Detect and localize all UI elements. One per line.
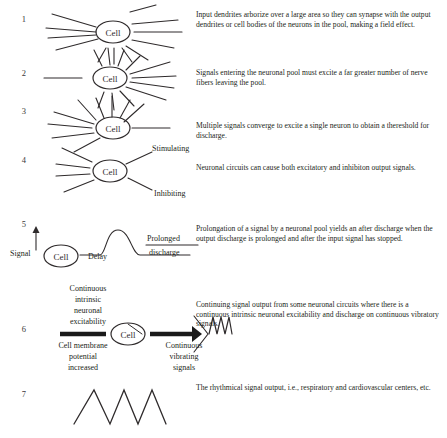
label-inhibiting: Inhibiting: [154, 189, 186, 198]
cell-label: Cell: [121, 330, 136, 340]
cell-label: Cell: [106, 28, 121, 38]
cell-label: Cell: [54, 252, 69, 262]
row-text-4: Neuronal circuits can cause both excitat…: [196, 163, 442, 173]
row-number-2: 2: [12, 68, 26, 78]
cell-label: Cell: [103, 74, 118, 84]
label-signal: Signal: [10, 249, 30, 258]
row-text-5: Prolongation of a signal by a neuronal p…: [196, 224, 442, 243]
diagram-rhythmical-output: [70, 384, 180, 428]
row-number-4: 4: [12, 155, 26, 165]
row-number-6: 6: [12, 324, 26, 334]
cell-label: Cell: [106, 124, 121, 134]
cell-node-row5: Cell: [41, 243, 81, 269]
row-text-2: Signals entering the neuronal pool must …: [196, 68, 442, 87]
row-text-6: Continuing signal output from some neuro…: [196, 300, 442, 329]
row-text-1: Input dendrites arborize over a large ar…: [196, 10, 442, 29]
row-number-7: 7: [12, 389, 26, 399]
label-prolonged: Prolonged: [147, 234, 180, 243]
cell-label: Cell: [103, 167, 118, 177]
row-number-1: 1: [12, 14, 26, 24]
label-stimulating: Stimulating: [152, 144, 189, 153]
label-cell-membrane-potential: Cell membrane potential increased: [28, 340, 138, 373]
label-discharge: discharge: [149, 248, 180, 257]
label-delay: Delay: [88, 252, 107, 261]
row-number-3: 3: [12, 106, 26, 116]
row-text-7: The rhythmical signal output, i.e., resp…: [196, 383, 442, 393]
row-text-3: Multiple signals converge to excite a si…: [196, 121, 442, 140]
label-continuous-vibrating-signals: Continuous vibrating signals: [146, 340, 222, 373]
